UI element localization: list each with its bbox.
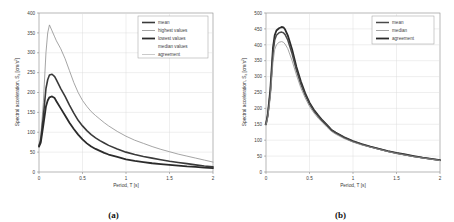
xaxis-label-b: Period, T [s] [340, 183, 366, 188]
yaxis-label-a-end: ] [15, 58, 20, 59]
yaxis-label-b: Spectral acceleration, Sa [cm/s2] [241, 58, 248, 126]
yticks-b: 050100150200250300350400450500 [254, 11, 266, 175]
figure-container: 00.511.52 050100150200250300350400 Perio… [0, 0, 454, 222]
ytick-label: 350 [27, 31, 35, 36]
ytick-label: 50 [30, 150, 36, 155]
yaxis-label-b-unit: [cm/s [242, 60, 247, 73]
ytick-label: 0 [259, 170, 262, 175]
yticks-a: 050100150200250300350400 [27, 11, 39, 175]
caption-b: (b) [227, 210, 454, 220]
xtick-label: 0.5 [306, 176, 313, 181]
xticks-b: 00.511.52 [265, 172, 442, 181]
svg-text:Spectral acceleration, Sa [cm/: Spectral acceleration, Sa [cm/s2] [14, 58, 21, 126]
ytick-label: 450 [254, 27, 262, 32]
chart-b-svg: 00.511.52 050100150200250300350400450500… [227, 0, 454, 200]
legend-label-lowest-values: lowest values [158, 36, 186, 41]
xtick-label: 1 [125, 176, 128, 181]
svg-text:Spectral acceleration, Sa [cm/: Spectral acceleration, Sa [cm/s2] [241, 58, 248, 126]
legend-label-median-values: median values [158, 44, 188, 49]
yaxis-label-b-main: Spectral acceleration, S [242, 76, 247, 127]
ytick-label: 400 [27, 11, 35, 16]
ytick-label: 150 [27, 110, 35, 115]
ytick-label: 350 [254, 58, 262, 63]
xtick-label: 0.5 [79, 176, 86, 181]
ytick-label: 250 [254, 90, 262, 95]
xtick-label: 1 [352, 176, 355, 181]
ytick-label: 500 [254, 11, 262, 16]
xaxis-label-a: Period, T [s] [113, 183, 139, 188]
ytick-label: 0 [32, 170, 35, 175]
caption-a: (a) [0, 210, 227, 220]
yaxis-label-a-main: Spectral acceleration, S [15, 76, 20, 127]
panel-b: 00.511.52 050100150200250300350400450500… [227, 0, 454, 222]
legend-label-highest-values: highest values [158, 28, 188, 33]
ytick-label: 100 [254, 138, 262, 143]
yaxis-label-b-end: ] [242, 58, 247, 59]
xtick-label: 0 [38, 176, 41, 181]
ytick-label: 200 [254, 106, 262, 111]
xtick-label: 2 [212, 176, 215, 181]
legend-a: meanhighest valueslowest valuesmedian va… [138, 16, 208, 58]
ytick-label: 50 [257, 154, 263, 159]
legend-label-mean: mean [392, 20, 404, 25]
ytick-label: 300 [27, 50, 35, 55]
legend-b: meanmedianagreement [372, 16, 434, 44]
xtick-label: 0 [265, 176, 268, 181]
legend-label-agreement: agreement [392, 36, 415, 41]
ytick-label: 200 [27, 90, 35, 95]
panel-a: 00.511.52 050100150200250300350400 Perio… [0, 0, 227, 222]
xticks-a: 00.511.52 [38, 172, 215, 181]
legend-label-mean: mean [158, 20, 170, 25]
yaxis-label-a: Spectral acceleration, Sa [cm/s2] [14, 58, 21, 126]
xtick-label: 1.5 [166, 176, 173, 181]
legend-label-agreement: agreement [158, 52, 181, 57]
ytick-label: 150 [254, 122, 262, 127]
legend-label-median: median [392, 28, 408, 33]
xtick-label: 2 [439, 176, 442, 181]
yaxis-label-a-unit: [cm/s [15, 60, 20, 73]
xtick-label: 1.5 [393, 176, 400, 181]
chart-a-svg: 00.511.52 050100150200250300350400 Perio… [0, 0, 227, 200]
ytick-label: 100 [27, 130, 35, 135]
ytick-label: 300 [254, 74, 262, 79]
ytick-label: 400 [254, 43, 262, 48]
ytick-label: 250 [27, 70, 35, 75]
